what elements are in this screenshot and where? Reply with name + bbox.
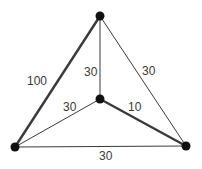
node-left bbox=[11, 143, 20, 152]
edge-center-right bbox=[100, 99, 186, 146]
edge-weight-label: 30 bbox=[99, 150, 112, 162]
edge-weight-label: 30 bbox=[84, 66, 97, 78]
edge-center-left bbox=[15, 99, 100, 147]
edge-weight-label: 10 bbox=[128, 101, 141, 113]
edge-weight-label: 100 bbox=[27, 75, 47, 87]
node-right bbox=[182, 142, 191, 151]
node-center bbox=[96, 95, 105, 104]
edge-weight-label: 30 bbox=[142, 65, 155, 77]
node-top bbox=[96, 12, 105, 21]
edge-left-right bbox=[15, 146, 186, 147]
edge-weight-label: 30 bbox=[63, 101, 76, 113]
edge-top-right bbox=[100, 16, 186, 146]
